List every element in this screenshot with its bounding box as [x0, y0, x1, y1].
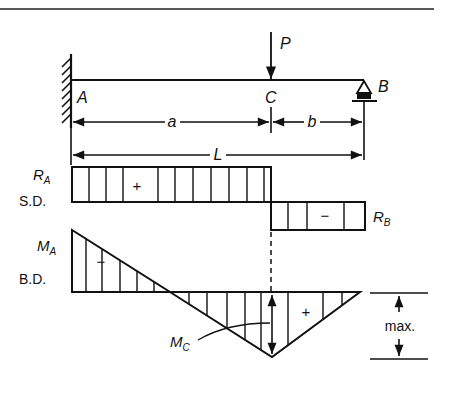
moment-ma-label: MA: [37, 237, 57, 257]
moment-mc-label: MC: [170, 333, 191, 353]
point-b-label: B: [378, 78, 389, 95]
point-a-label: A: [76, 89, 88, 106]
shear-rb-label: RB: [373, 208, 391, 228]
point-c-label: C: [265, 89, 277, 106]
moment-negative-sign: −: [97, 253, 106, 270]
bending-diagram: [72, 230, 360, 357]
shear-positive-sign: +: [133, 177, 142, 194]
beam-diagram: P B A C a b L: [0, 0, 453, 398]
dimension-b-label: b: [308, 113, 317, 130]
shear-diagram-label: S.D.: [19, 193, 46, 209]
fixed-wall: [62, 54, 71, 128]
dimension-l-label: L: [214, 146, 223, 163]
shear-ra-label: RA: [33, 166, 51, 186]
roller-support: [352, 81, 377, 101]
moment-positive-sign: +: [302, 303, 311, 320]
shear-negative-sign: −: [321, 207, 330, 224]
dimension-a-label: a: [168, 113, 177, 130]
max-label: max.: [385, 318, 415, 334]
load-label: P: [280, 35, 291, 52]
bending-diagram-label: B.D.: [19, 271, 46, 287]
